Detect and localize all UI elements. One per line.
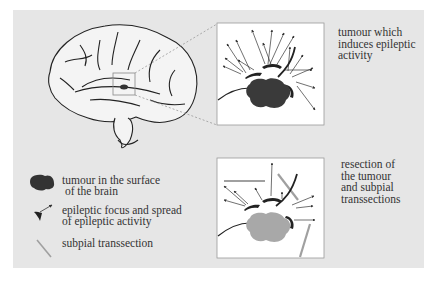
epileptic-focus-icon xyxy=(34,205,52,221)
panel-tumour-after xyxy=(217,158,324,258)
transection-line-icon xyxy=(37,240,51,257)
legend-text: of the brain xyxy=(62,186,160,197)
panel-tumour-before xyxy=(217,23,324,125)
caption-tumour-before: tumour which induces epileptic activity xyxy=(338,27,416,62)
caption-line: transsections xyxy=(341,194,400,206)
legend-item-transection: subpial transsection xyxy=(62,238,153,249)
tumour-blob-icon xyxy=(30,175,54,191)
small-tumour xyxy=(120,85,128,90)
caption-line: activity xyxy=(338,50,416,62)
legend-text: subpial transsection xyxy=(62,238,153,249)
legend-item-epileptic-focus: epileptic focus and spread of epileptic … xyxy=(62,205,182,227)
caption-tumour-after: resection of the tumour and subpial tran… xyxy=(341,159,400,205)
caption-line: tumour which xyxy=(338,27,416,39)
legend-item-tumour: tumour in the surface of the brain xyxy=(62,175,160,197)
caption-line: resection of xyxy=(341,159,400,171)
caption-line: and subpial xyxy=(341,182,400,194)
legend-text: of epileptic activity xyxy=(62,216,182,227)
